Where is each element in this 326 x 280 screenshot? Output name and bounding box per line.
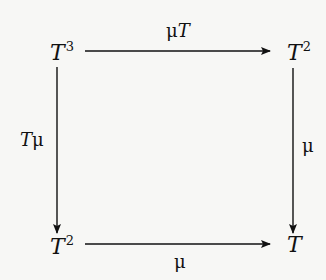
label-top-mu: μ (166, 20, 178, 41)
label-right-mu: μ (302, 137, 314, 155)
label-left-t-mu: Tμ (20, 131, 44, 149)
node-t-squared-bottom: T2 (50, 234, 74, 258)
node-t-squared-top-exp: 2 (303, 39, 311, 54)
node-t-squared-top-base: T (287, 40, 302, 65)
label-top-t: T (178, 20, 190, 41)
label-right-mu-text: μ (302, 135, 314, 156)
node-t-squared-top: T2 (287, 40, 311, 64)
label-left-mu: μ (32, 129, 44, 150)
node-t-squared-bottom-exp: 2 (66, 233, 74, 248)
label-bottom-mu: μ (174, 253, 186, 271)
node-t: T (287, 234, 302, 256)
node-t-squared-bottom-base: T (50, 234, 65, 259)
node-t-cubed-exp: 3 (66, 39, 74, 54)
node-t-base: T (287, 232, 302, 257)
node-t-cubed-base: T (50, 40, 65, 65)
label-bottom-mu-text: μ (174, 251, 186, 272)
label-top-mu-t: μT (166, 22, 190, 40)
node-t-cubed: T3 (50, 40, 74, 64)
label-left-t: T (20, 129, 32, 150)
arrows-layer (0, 0, 326, 280)
